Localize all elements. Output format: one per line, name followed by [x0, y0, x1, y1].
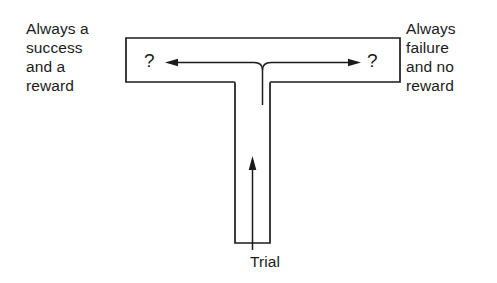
arrow-left-icon: [165, 59, 178, 67]
trial-start-label: Trial: [215, 252, 315, 271]
choice-fork-icon: [173, 63, 353, 106]
left-arm-outcome-label: Always a success and a reward: [26, 19, 122, 95]
t-maze-figure: Always a success and a reward Always fai…: [0, 0, 497, 283]
arrow-up-icon: [249, 156, 257, 250]
left-choice-question-mark: ?: [144, 51, 155, 70]
arrow-right-icon: [348, 59, 361, 67]
right-arm-outcome-label: Always failure and no reward: [406, 19, 496, 95]
right-choice-question-mark: ?: [367, 51, 378, 70]
